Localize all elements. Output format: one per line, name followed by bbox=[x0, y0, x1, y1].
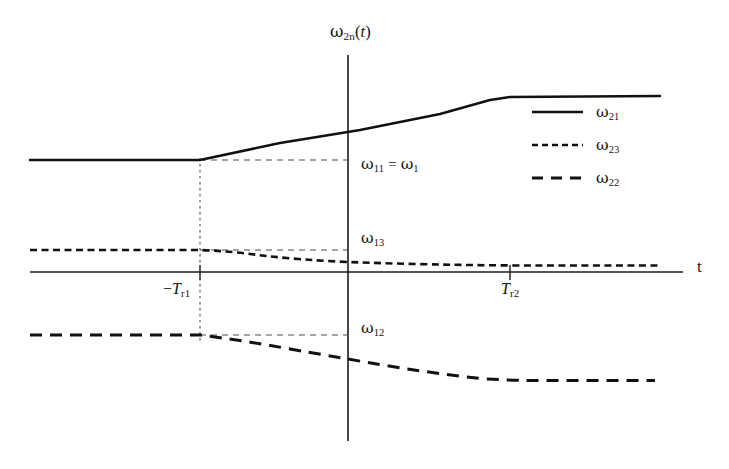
y-axis-omega: ω bbox=[330, 22, 343, 41]
legend-omega23-subscript: 23 bbox=[609, 144, 620, 155]
curve-label-omega12-symbol: ω bbox=[361, 319, 374, 337]
legend-omega22-symbol: ω bbox=[596, 169, 609, 187]
curve-label-omega1-symbol: ω bbox=[401, 155, 414, 173]
curve-label-omega13-symbol: ω bbox=[361, 229, 374, 247]
curve-label-omega11-equals: = bbox=[384, 155, 401, 172]
curve-label-omega13-subscript: 13 bbox=[374, 237, 385, 248]
legend-omega22-subscript: 22 bbox=[609, 177, 620, 188]
y-axis-label: ω2n(t) bbox=[330, 24, 371, 42]
curve-label-omega1-subscript: 1 bbox=[413, 163, 418, 174]
tick-left-subscript: r1 bbox=[181, 287, 190, 299]
x-axis-label: t bbox=[697, 258, 702, 275]
curve-omega23 bbox=[30, 250, 660, 266]
tick-right-subscript: r2 bbox=[510, 287, 519, 299]
tick-left-prefix: − bbox=[163, 280, 172, 297]
curve-label-omega11-symbol: ω bbox=[361, 155, 374, 173]
legend-label-omega22: ω22 bbox=[596, 170, 620, 188]
figure-container: ω2n(t) t −Tr1 Tr2 ω11 = ω1 ω13 ω12 ω21 ω… bbox=[0, 0, 729, 469]
tick-right-symbol: T bbox=[501, 280, 510, 297]
curve-omega22 bbox=[30, 335, 655, 381]
curve-omega21 bbox=[30, 96, 660, 160]
y-axis-paren-close: ) bbox=[365, 22, 371, 41]
legend-label-omega21: ω21 bbox=[596, 104, 620, 122]
tick-left-symbol: T bbox=[172, 280, 181, 297]
legend-omega21-symbol: ω bbox=[596, 103, 609, 121]
y-axis-subscript: 2n bbox=[343, 30, 355, 42]
curve-label-omega12: ω12 bbox=[361, 320, 385, 338]
legend-label-omega23: ω23 bbox=[596, 137, 620, 155]
legend-omega21-subscript: 21 bbox=[609, 111, 620, 122]
curve-label-omega13: ω13 bbox=[361, 230, 385, 248]
curve-label-omega12-subscript: 12 bbox=[374, 327, 385, 338]
tick-label-right: Tr2 bbox=[501, 281, 519, 299]
legend-omega23-symbol: ω bbox=[596, 136, 609, 154]
tick-label-left: −Tr1 bbox=[163, 281, 190, 299]
curve-label-omega11: ω11 = ω1 bbox=[361, 156, 419, 174]
curve-label-omega11-subscript: 11 bbox=[374, 163, 385, 174]
